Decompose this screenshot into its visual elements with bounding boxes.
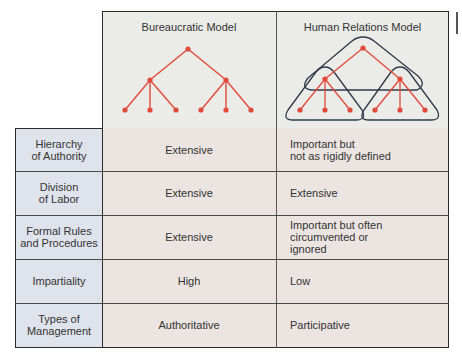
- hierarchy-diagrams: [0, 0, 462, 362]
- bureaucratic-tree-icon: [122, 46, 253, 112]
- human-relations-tree-icon: [286, 37, 439, 120]
